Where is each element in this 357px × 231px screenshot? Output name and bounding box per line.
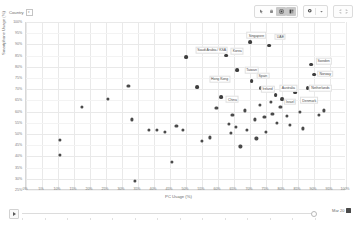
play-button[interactable]: [9, 209, 19, 219]
grid-line-horizontal: [26, 100, 345, 101]
grid-line-vertical: [282, 22, 283, 189]
point-label[interactable]: Netherlands: [309, 85, 331, 92]
grid-line-vertical: [330, 22, 331, 189]
scatter-point[interactable]: [245, 128, 248, 131]
point-label[interactable]: Sweden: [315, 58, 331, 65]
grid-line-horizontal: [26, 44, 345, 45]
scatter-point[interactable]: [312, 73, 316, 77]
scatter-point[interactable]: [184, 55, 188, 59]
timeline-tick: [292, 218, 293, 220]
toolbar-group-fullscreen: [333, 5, 353, 18]
scatter-point[interactable]: [285, 114, 288, 117]
scatter-canvas[interactable]: Saudi Arabia / KSAHong KongChinaKoreaTai…: [25, 22, 345, 190]
scatter-point[interactable]: [234, 126, 237, 129]
scatter-point[interactable]: [148, 128, 151, 131]
scatter-point[interactable]: [195, 85, 199, 89]
expand-icon[interactable]: [335, 7, 351, 16]
scatter-point[interactable]: [235, 68, 239, 72]
scatter-point[interactable]: [288, 123, 291, 126]
zoom-area-icon[interactable]: [276, 7, 286, 16]
scatter-point[interactable]: [156, 128, 159, 131]
scatter-point[interactable]: [274, 93, 278, 97]
scatter-point[interactable]: [127, 84, 130, 87]
scatter-point[interactable]: [298, 110, 301, 113]
grid-line-vertical: [250, 22, 251, 189]
timeline-slider[interactable]: [22, 213, 315, 215]
scatter-point[interactable]: [317, 113, 320, 116]
grid-line-horizontal: [26, 179, 345, 180]
point-label[interactable]: Singapore: [247, 32, 267, 39]
country-filter[interactable]: Country ▾: [9, 9, 33, 16]
pan-hand-icon[interactable]: [266, 7, 276, 16]
grid-line-vertical: [346, 22, 347, 189]
scatter-point[interactable]: [200, 139, 203, 142]
scatter-point[interactable]: [58, 138, 61, 141]
chevron-down-icon[interactable]: [316, 7, 326, 16]
scatter-point[interactable]: [164, 130, 167, 133]
timeline-tick: [202, 218, 203, 220]
scatter-point[interactable]: [208, 136, 211, 139]
scatter-point[interactable]: [175, 125, 178, 128]
scatter-point[interactable]: [248, 40, 252, 44]
point-label[interactable]: Spain: [256, 72, 269, 79]
grid-line-vertical: [58, 22, 59, 189]
y-axis-tick-label: 35%: [10, 166, 22, 170]
series-color-swatch: [346, 208, 351, 213]
timeline-tick: [270, 218, 271, 220]
toolbar-group-settings: [303, 5, 328, 18]
scatter-point[interactable]: [276, 121, 279, 124]
point-label[interactable]: Korea: [231, 48, 244, 55]
y-axis-tick-label: 90%: [10, 42, 22, 46]
pointer-icon[interactable]: [256, 7, 266, 16]
scatter-point[interactable]: [301, 127, 304, 130]
point-label[interactable]: Norway: [317, 70, 333, 77]
scatter-point[interactable]: [271, 112, 274, 115]
country-filter-label: Country: [9, 10, 24, 15]
scatter-point[interactable]: [269, 100, 272, 103]
scatter-point[interactable]: [170, 160, 173, 163]
grid-line-horizontal: [26, 145, 345, 146]
x-axis-tick-label: 65%: [230, 187, 237, 191]
point-label[interactable]: Ireland: [260, 86, 274, 93]
scatter-point[interactable]: [255, 137, 258, 140]
scatter-point[interactable]: [228, 122, 231, 125]
point-label[interactable]: UAE: [275, 33, 286, 40]
scatter-point[interactable]: [80, 106, 83, 109]
timeline-tick: [90, 218, 91, 220]
point-label[interactable]: Israel: [284, 98, 296, 105]
scatter-point[interactable]: [219, 95, 223, 99]
gear-icon[interactable]: [305, 7, 315, 16]
scatter-point[interactable]: [224, 54, 228, 58]
y-axis-tick-label: 95%: [10, 31, 22, 35]
y-axis-tick-label: 50%: [10, 132, 22, 136]
scatter-point[interactable]: [267, 44, 271, 48]
point-label[interactable]: Saudi Arabia / KSA: [195, 47, 228, 54]
scatter-point[interactable]: [133, 179, 136, 182]
timeline-ticks: [22, 218, 315, 222]
timeline-player: Mar 20: [0, 207, 357, 227]
scatter-point[interactable]: [130, 118, 133, 121]
scatter-point[interactable]: [253, 118, 256, 121]
scatter-point[interactable]: [264, 130, 267, 133]
scatter-point[interactable]: [250, 79, 254, 83]
y-axis-tick-label: 55%: [10, 121, 22, 125]
y-axis-tick-label: 45%: [10, 143, 22, 147]
grid-line-vertical: [74, 22, 75, 189]
scatter-point[interactable]: [258, 103, 261, 106]
x-axis-tick-label: 85%: [294, 187, 301, 191]
point-label[interactable]: Hong Kong: [209, 76, 230, 83]
timeline-tick: [67, 218, 68, 220]
point-label[interactable]: Denmark: [300, 97, 318, 104]
chevron-down-icon[interactable]: ▾: [26, 9, 33, 16]
timeline-handle[interactable]: [311, 211, 318, 218]
timeline-tick: [157, 218, 158, 220]
lasso-select-icon[interactable]: [286, 7, 296, 16]
x-axis-tick-label: 10%: [54, 187, 61, 191]
scatter-point[interactable]: [309, 63, 313, 67]
point-label[interactable]: China: [226, 96, 239, 103]
scatter-point[interactable]: [239, 145, 242, 148]
scatter-point[interactable]: [181, 128, 184, 131]
y-axis-tick-label: 80%: [10, 65, 22, 69]
grid-line-vertical: [298, 22, 299, 189]
point-label[interactable]: Australia: [280, 85, 297, 92]
